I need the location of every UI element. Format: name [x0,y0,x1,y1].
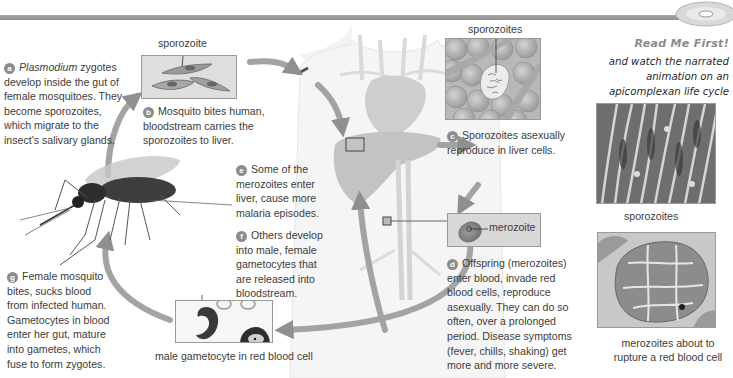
text-line: asexually. They can do so [447,300,597,315]
text-line: Sporozoites asexually [462,129,565,141]
step-d-text: dOffspring (merozoites) enter blood, inv… [447,256,597,373]
text-line: become sporozoites, [4,104,144,119]
text-line: bites, sucks blood [7,284,122,299]
text-line: gametocytes that [236,257,346,272]
text-line: merozoites enter [236,177,346,192]
gametocyte-panel [175,300,273,343]
text-line: fuse to form zygotes. [7,357,122,372]
text-line: more and more severe. [447,358,597,373]
step-e-text: eSome of the merozoites enter liver, cau… [236,162,346,220]
text-line: Others develop [251,229,323,241]
text-line: female mosquitoes. They [4,89,144,104]
text-line: into male, female [236,243,346,258]
step-f-text: fOthers develop into male, female gameto… [236,228,346,301]
text-line: (fever, chills, shaking) get [447,344,597,359]
text-line: develop inside the gut of [4,75,144,90]
merozoite-label: merozoite [489,221,536,233]
merozoites-micrograph-image [598,233,716,328]
sporozoite-label: sporozoite [158,37,207,49]
text-line: insect's salivary glands. [4,133,144,148]
step-b-text: bMosquito bites human, bloodstream carri… [143,104,283,148]
gametocyte-label: male gametocyte in red blood cell [155,350,313,362]
text-line: which migrate to the [4,118,144,133]
italic-genus: Plasmodium [19,61,77,73]
text-line: period. Disease symptoms [447,329,597,344]
step-a-text: aPlasmodium zygotes develop inside the g… [4,60,144,148]
liver-cells-panel [445,38,541,120]
text-line: zygotes [77,61,116,73]
text-line: are released into [236,272,346,287]
text-line: blood cells, reproduce [447,285,597,300]
text-line: bloodstream. [236,286,346,301]
step-badge-f: f [236,231,247,242]
sporozoite-panel [141,55,237,99]
text-line: malaria episodes. [236,206,346,221]
step-c-text: cSporozoites asexually reproduce in live… [447,128,587,157]
step-badge-e: e [236,165,247,176]
text-line: Offspring (merozoites) [462,257,567,269]
sporozoites-micrograph-image [597,104,716,204]
text-line: enter her gut, mature [7,327,122,342]
text-line: reproduce in liver cells. [447,143,587,158]
text-line: Gametocytes in blood [7,313,122,328]
merozoites-micrograph-caption: merozoites about to rupture a red blood … [604,336,732,364]
step-badge-a: a [4,63,15,74]
arrow-b-to-human [250,61,295,70]
text-line: enter blood, invade red [447,271,597,286]
sporozoites-micrograph-caption: sporozoites [624,210,678,222]
step-badge-g: g [7,272,18,283]
merozoites-micrograph [597,232,716,328]
mosquito-illustration [20,156,232,265]
caption-line: merozoites about to [604,336,732,350]
sporozoite-cells [142,56,237,99]
step-g-text: gFemale mosquito bites, sucks blood from… [7,269,122,371]
text-line: bloodstream carries the [143,119,283,134]
step-badge-b: b [143,107,154,118]
text-line: sporozoites to liver. [143,133,283,148]
blood-detail-box [383,217,391,225]
sporozoites-micrograph [596,103,716,204]
text-line: into gametes, which [7,342,122,357]
text-line: Some of the [251,163,308,175]
text-line: from infected human. [7,298,122,313]
step-badge-d: d [447,259,458,270]
liver-cells-image [446,39,541,120]
text-line: Mosquito bites human, [158,105,265,117]
sporozoites-liver-label: sporozoites [468,23,522,35]
text-line: Female mosquito [22,270,103,282]
step-badge-c: c [447,131,458,142]
caption-line: rupture a red blood cell [604,350,732,364]
text-line: often, over a prolonged [447,314,597,329]
gametocyte-cells [176,301,273,343]
text-line: liver, cause more [236,191,346,206]
